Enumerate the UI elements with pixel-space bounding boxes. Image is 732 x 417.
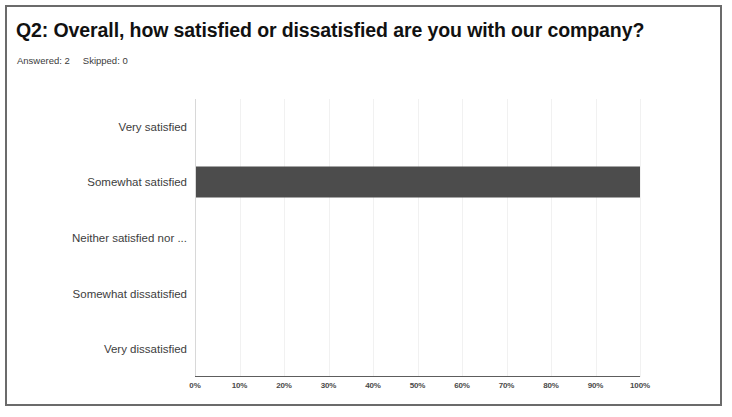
tick-label: 30% (321, 381, 337, 390)
x-axis-tick-labels: 0%10%20%30%40%50%60%70%80%90%100% (195, 381, 655, 397)
category-label: Neither satisfied nor ... (11, 231, 187, 245)
bar-row[interactable] (195, 266, 640, 322)
tick-label: 20% (276, 381, 292, 390)
response-meta: Answered: 2Skipped: 0 (17, 55, 128, 66)
bar[interactable] (196, 167, 640, 198)
y-axis-category-labels: Very satisfiedSomewhat satisfiedNeither … (7, 99, 187, 377)
page-title: Q2: Overall, how satisfied or dissatisfi… (16, 17, 722, 43)
bar-row[interactable] (195, 155, 640, 211)
answered-count: Answered: 2 (17, 55, 70, 66)
category-label: Somewhat satisfied (11, 175, 187, 189)
tick-label: 10% (232, 381, 248, 390)
survey-result-card: Q2: Overall, how satisfied or dissatisfi… (5, 5, 722, 406)
tick-label: 40% (365, 381, 381, 390)
plot-area (195, 99, 640, 377)
bar-row[interactable] (195, 210, 640, 266)
tick-label: 90% (588, 381, 604, 390)
gridline (640, 99, 641, 377)
tick-label: 70% (499, 381, 515, 390)
tick-label: 0% (189, 381, 200, 390)
bar-row[interactable] (195, 321, 640, 377)
x-axis-line (195, 376, 640, 378)
tick-label: 100% (630, 381, 650, 390)
tick-label: 50% (410, 381, 426, 390)
category-label: Somewhat dissatisfied (11, 287, 187, 301)
category-label: Very satisfied (11, 120, 187, 134)
tick-label: 60% (454, 381, 470, 390)
bar-row[interactable] (195, 99, 640, 155)
tick-label: 80% (543, 381, 559, 390)
skipped-count: Skipped: 0 (83, 55, 128, 66)
bar-chart: Very satisfiedSomewhat satisfiedNeither … (7, 79, 720, 404)
category-label: Very dissatisfied (11, 342, 187, 356)
